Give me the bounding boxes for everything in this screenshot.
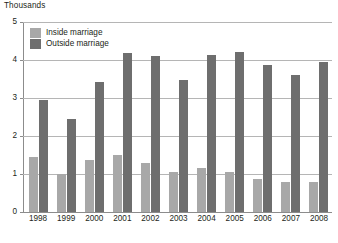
y-tick-label: 0 bbox=[12, 208, 17, 216]
bar bbox=[225, 172, 234, 212]
x-tick-label: 2002 bbox=[136, 214, 164, 223]
x-tick-label: 1998 bbox=[24, 214, 52, 223]
x-tick-label: 1999 bbox=[52, 214, 80, 223]
gridline bbox=[23, 212, 332, 213]
legend-swatch-icon-inside bbox=[30, 28, 41, 38]
bar bbox=[169, 172, 178, 212]
x-tick-label: 2003 bbox=[164, 214, 192, 223]
y-tick-label: 5 bbox=[12, 18, 17, 26]
y-tick-mark bbox=[20, 136, 23, 137]
bar-group bbox=[164, 22, 192, 212]
y-tick-mark bbox=[20, 212, 23, 213]
bar bbox=[141, 163, 150, 212]
footnote-strip bbox=[6, 236, 332, 243]
y-tick-mark bbox=[20, 22, 23, 23]
bar bbox=[123, 53, 132, 212]
bar-chart: Thousands 012345 19981999200020012002200… bbox=[0, 0, 338, 243]
x-tick-label: 2000 bbox=[80, 214, 108, 223]
y-axis-unit-caption: Thousands bbox=[4, 1, 45, 10]
x-tick-label: 2005 bbox=[221, 214, 249, 223]
bar-group bbox=[276, 22, 304, 212]
bar-groups bbox=[24, 22, 332, 212]
bar-group bbox=[52, 22, 80, 212]
y-tick-mark bbox=[20, 98, 23, 99]
y-tick-label: 4 bbox=[12, 56, 17, 64]
bar bbox=[291, 75, 300, 212]
bar bbox=[151, 56, 160, 212]
bar-group bbox=[80, 22, 108, 212]
bar bbox=[57, 174, 66, 212]
bar-group bbox=[136, 22, 164, 212]
bar bbox=[263, 65, 272, 212]
bar bbox=[281, 182, 290, 212]
y-tick-label: 1 bbox=[12, 170, 17, 178]
y-tick-mark bbox=[20, 174, 23, 175]
bar-group bbox=[248, 22, 276, 212]
x-tick-label: 2007 bbox=[277, 214, 305, 223]
bar-group bbox=[108, 22, 136, 212]
bar bbox=[85, 160, 94, 212]
legend-item-inside-marriage: Inside marriage bbox=[30, 28, 109, 38]
legend-swatch-icon-outside bbox=[30, 39, 41, 49]
bar bbox=[95, 82, 104, 212]
bar-group bbox=[304, 22, 332, 212]
bar bbox=[113, 155, 122, 212]
x-tick-label: 2008 bbox=[305, 214, 333, 223]
bar-group bbox=[220, 22, 248, 212]
bar bbox=[319, 62, 328, 212]
bar-group bbox=[24, 22, 52, 212]
bar bbox=[309, 182, 318, 212]
y-tick-label: 3 bbox=[12, 94, 17, 102]
plot-area: 012345 bbox=[23, 22, 332, 212]
bar bbox=[207, 55, 216, 212]
bar-group bbox=[192, 22, 220, 212]
legend-label-outside: Outside marriage bbox=[46, 40, 109, 48]
bar bbox=[253, 179, 262, 212]
x-tick-label: 2006 bbox=[249, 214, 277, 223]
bar bbox=[197, 168, 206, 212]
chart-legend: Inside marriage Outside marriage bbox=[30, 28, 109, 50]
x-tick-label: 2004 bbox=[193, 214, 221, 223]
bar bbox=[29, 157, 38, 212]
bar bbox=[67, 119, 76, 212]
legend-label-inside: Inside marriage bbox=[46, 29, 102, 37]
legend-item-outside-marriage: Outside marriage bbox=[30, 39, 109, 49]
y-tick-label: 2 bbox=[12, 132, 17, 140]
bar bbox=[235, 52, 244, 212]
bar bbox=[39, 100, 48, 212]
x-tick-label: 2001 bbox=[108, 214, 136, 223]
x-axis-labels: 1998199920002001200220032004200520062007… bbox=[24, 214, 333, 223]
y-tick-mark bbox=[20, 60, 23, 61]
bar bbox=[179, 80, 188, 212]
